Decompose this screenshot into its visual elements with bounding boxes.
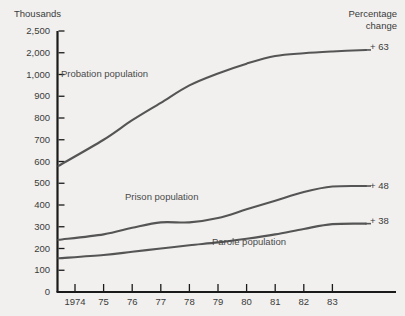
chart-plot-area xyxy=(0,0,405,316)
y-tick-label: 400 xyxy=(14,199,50,210)
y-tick-label: 2,500 xyxy=(14,25,50,36)
y-tick-label: 1,000 xyxy=(14,69,50,80)
series-end-markers xyxy=(365,50,371,224)
x-axis-ticks xyxy=(75,284,332,291)
y-tick-label: 200 xyxy=(14,243,50,254)
percentage-change-line2: change xyxy=(348,20,397,32)
series-line xyxy=(59,186,367,240)
end-label-probation: + 63 xyxy=(370,41,389,52)
series-label-prison: Prison population xyxy=(125,191,198,202)
y-tick-label: 100 xyxy=(14,264,50,275)
y-tick-label: 2,000 xyxy=(14,47,50,58)
y-tick-label: 600 xyxy=(14,156,50,167)
y-tick-label: 0 xyxy=(14,286,50,297)
y-tick-label: 700 xyxy=(14,134,50,145)
series-label-probation: Probation population xyxy=(61,68,148,79)
series-lines-group xyxy=(59,50,367,258)
end-label-parole: + 38 xyxy=(370,215,389,226)
y-tick-label: 500 xyxy=(14,177,50,188)
y-tick-label: 900 xyxy=(14,90,50,101)
y-axis-unit-label: Thousands xyxy=(14,8,61,19)
y-tick-label: 300 xyxy=(14,221,50,232)
percentage-change-header: Percentage change xyxy=(348,8,397,31)
percentage-change-line1: Percentage xyxy=(348,8,397,20)
x-tick-label: 83 xyxy=(315,296,349,307)
chart-figure: Thousands Percentage change 010020030040… xyxy=(0,0,405,316)
y-tick-label: 800 xyxy=(14,112,50,123)
end-label-prison: + 48 xyxy=(370,180,389,191)
series-label-parole: Parole population xyxy=(212,236,286,247)
